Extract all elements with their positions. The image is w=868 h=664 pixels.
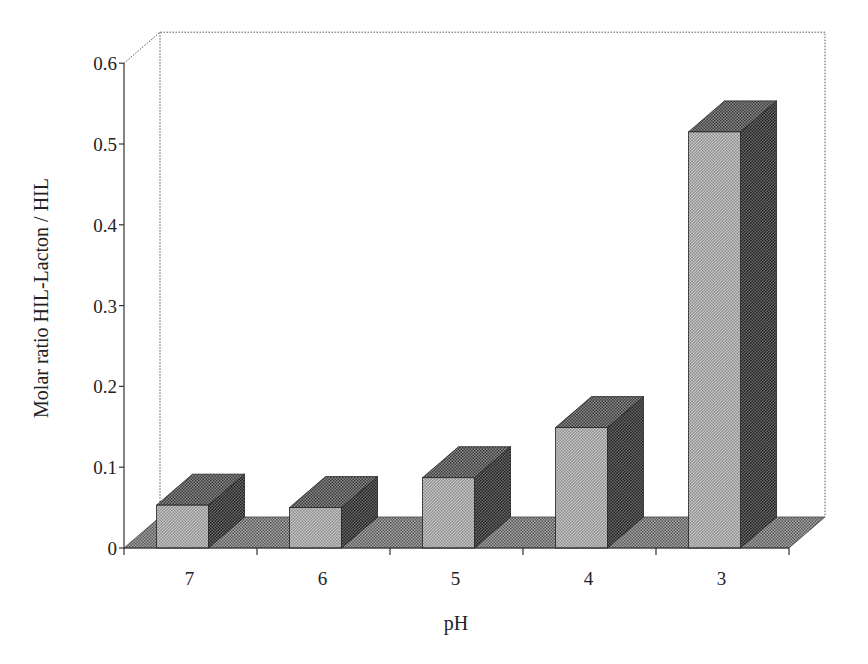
x-axis-title: pH xyxy=(444,612,468,635)
bars xyxy=(157,101,777,548)
bar-3 xyxy=(689,101,777,548)
x-tick-label: 5 xyxy=(451,568,461,589)
y-tick-label: 0 xyxy=(108,538,118,559)
bar-chart-3d: 00.10.20.30.40.50.6 76543 Molar ratio HI… xyxy=(0,0,868,664)
y-axis-title: Molar ratio HIL-Lacton / HIL xyxy=(30,178,52,418)
y-tick-label: 0.4 xyxy=(93,215,117,236)
x-tick-label: 6 xyxy=(318,568,328,589)
x-tick-label: 4 xyxy=(584,568,594,589)
y-axis: 00.10.20.30.40.50.6 xyxy=(93,53,124,559)
x-tick-label: 3 xyxy=(717,568,727,589)
x-axis: 76543 xyxy=(124,548,789,589)
y-tick-label: 0.1 xyxy=(93,457,117,478)
y-tick-label: 0.2 xyxy=(93,376,117,397)
y-tick-label: 0.3 xyxy=(93,296,117,317)
x-tick-label: 7 xyxy=(185,568,195,589)
y-tick-label: 0.5 xyxy=(93,134,117,155)
bar-4 xyxy=(556,397,644,548)
y-tick-label: 0.6 xyxy=(93,53,117,74)
